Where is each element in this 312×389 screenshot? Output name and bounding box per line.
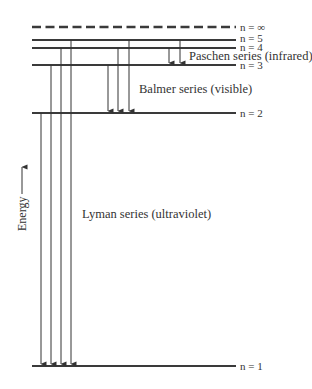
paschen-series-label: Paschen series (infrared) (189, 49, 312, 63)
label-n-2: n = 2 (240, 107, 263, 119)
balmer-series-label: Balmer series (visible) (139, 82, 252, 96)
lyman-transitions (41, 40, 71, 364)
energy-level-diagram: n = ∞ n = 5 n = 4 n = 3 n = 2 n = 1 Pasc… (0, 0, 312, 389)
label-n-1: n = 1 (240, 360, 263, 372)
energy-axis: Energy (15, 167, 29, 231)
paschen-transitions (169, 40, 180, 63)
level-labels: n = ∞ n = 5 n = 4 n = 3 n = 2 n = 1 (240, 21, 265, 372)
balmer-transitions (108, 40, 129, 111)
energy-axis-label: Energy (15, 197, 29, 231)
energy-levels (32, 27, 236, 366)
lyman-series-label: Lyman series (ultraviolet) (82, 207, 211, 221)
